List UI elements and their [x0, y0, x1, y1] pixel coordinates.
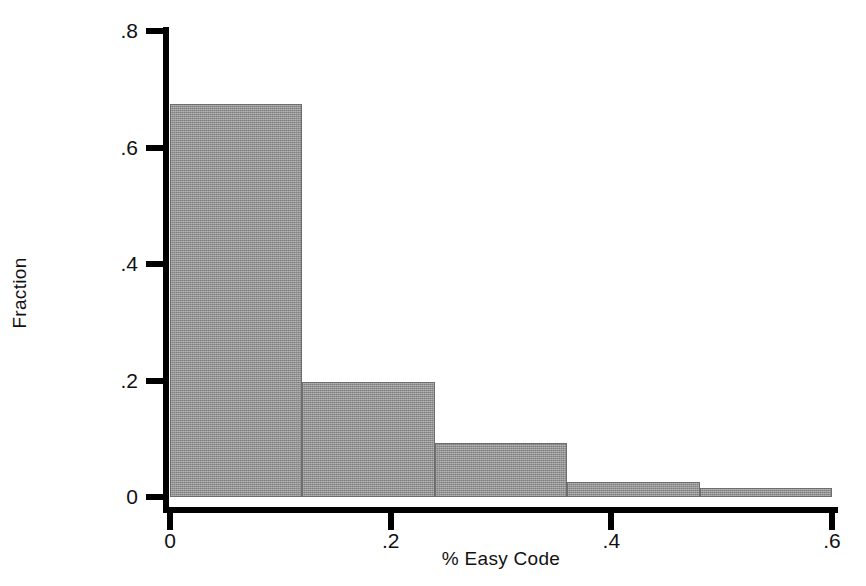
- y-tick-label: .2: [96, 370, 138, 391]
- x-tick-mark: [167, 511, 173, 530]
- plot-area: 0.2.4.6.8 0.2.4.6: [0, 0, 866, 586]
- y-tick-label: .8: [96, 20, 138, 41]
- x-axis-spine: [163, 507, 838, 513]
- histogram-bar: [435, 443, 567, 497]
- y-tick-mark: [146, 145, 164, 151]
- y-tick-label: .6: [96, 137, 138, 158]
- x-tick-mark: [608, 511, 614, 530]
- y-tick-mark: [146, 378, 164, 384]
- y-tick-mark: [146, 261, 164, 267]
- histogram-bar: [170, 104, 302, 497]
- histogram-bar: [700, 488, 832, 497]
- histogram-bar: [302, 382, 434, 497]
- histogram-figure: 0.2.4.6.8 0.2.4.6 Fraction % Easy Code: [0, 0, 866, 586]
- y-tick-mark: [146, 494, 164, 500]
- y-tick-label: 0: [96, 486, 138, 507]
- y-tick-label: .4: [96, 253, 138, 274]
- x-axis-label: % Easy Code: [170, 548, 832, 570]
- y-tick-mark: [146, 28, 164, 34]
- x-tick-mark: [388, 511, 394, 530]
- x-tick-mark: [829, 511, 835, 530]
- histogram-bar: [567, 482, 699, 497]
